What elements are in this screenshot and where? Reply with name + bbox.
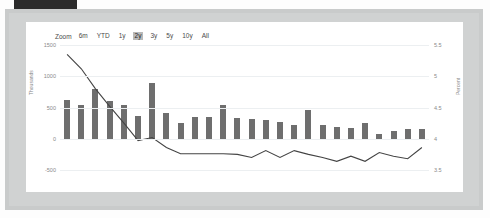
gridline — [60, 76, 429, 77]
left-axis-tick: 500 — [30, 105, 56, 111]
zoom-button-2y[interactable]: 2y — [133, 32, 144, 41]
left-axis-tick: -500 — [30, 167, 56, 173]
zoom-button-1y[interactable]: 1y — [117, 32, 128, 41]
right-axis-tick: 4.5 — [434, 105, 460, 111]
zoom-button-10y[interactable]: 10y — [180, 32, 194, 41]
right-axis-title: Percent — [455, 78, 461, 95]
gridline — [60, 170, 429, 171]
left-axis-tick: 1500 — [30, 42, 56, 48]
zoom-button-all[interactable]: All — [200, 32, 211, 41]
plot-area: 15005.5100055004.504-5003.5 — [60, 45, 429, 170]
zoom-button-3y[interactable]: 3y — [148, 32, 159, 41]
gridline — [60, 45, 429, 46]
gridline — [60, 108, 429, 109]
screenshot-root: Zoom 6m YTD 1y 2y 3y 5y 10y All Thousand… — [0, 0, 490, 218]
gridline — [60, 139, 429, 140]
right-axis-tick: 5.5 — [434, 42, 460, 48]
right-axis-tick: 3.5 — [434, 167, 460, 173]
chart-title — [205, 19, 325, 28]
zoom-selector-label: Zoom — [55, 33, 72, 40]
zoom-button-6m[interactable]: 6m — [77, 32, 90, 41]
left-axis-tick: 1000 — [30, 73, 56, 79]
zoom-button-ytd[interactable]: YTD — [95, 32, 112, 41]
left-axis-tick: 0 — [30, 136, 56, 142]
right-axis-tick: 5 — [434, 73, 460, 79]
zoom-button-5y[interactable]: 5y — [164, 32, 175, 41]
right-axis-tick: 4 — [434, 136, 460, 142]
zoom-selector: Zoom 6m YTD 1y 2y 3y 5y 10y All — [55, 30, 211, 42]
